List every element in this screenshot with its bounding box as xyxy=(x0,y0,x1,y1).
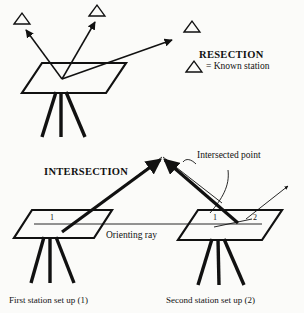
resection-ray-right xyxy=(62,40,172,79)
intersected-point-leader xyxy=(183,160,228,213)
resection-ray-middle xyxy=(62,22,95,79)
second-station-caption: Second station set up (2) xyxy=(166,296,255,305)
resection-ray-left xyxy=(26,30,62,79)
known-station-triangle-middle xyxy=(89,5,105,16)
plane-table-surveying-figure: RESECTION = Known station INTERSECTION I… xyxy=(0,0,304,313)
intersection-ray-thin-extension-right xyxy=(163,157,222,203)
plane-table-resection-legs xyxy=(42,92,85,137)
intersected-point-label: Intersected point xyxy=(197,151,261,161)
intersection-ray-from-second-station xyxy=(165,160,238,223)
intersection-title: INTERSECTION xyxy=(44,167,128,178)
intersection-ray-thin-extension-left xyxy=(108,157,162,198)
orienting-ray-label: Orienting ray xyxy=(106,231,157,241)
plane-table-first-legs xyxy=(31,237,74,283)
known-station-legend-text: = Known station xyxy=(206,62,269,72)
known-station-triangle-left xyxy=(14,13,30,24)
plane-table-second-legs xyxy=(198,239,244,285)
second-table-point-2: 2 xyxy=(253,214,257,222)
resection-title: RESECTION xyxy=(199,50,264,61)
second-table-point-1: 1 xyxy=(213,214,217,222)
first-station-caption: First station set up (1) xyxy=(9,296,88,305)
known-station-triangle-right xyxy=(184,21,200,32)
first-table-point-1: 1 xyxy=(50,214,54,222)
legend-known-station-icon xyxy=(186,61,202,72)
plane-table-resection-top xyxy=(22,63,126,93)
